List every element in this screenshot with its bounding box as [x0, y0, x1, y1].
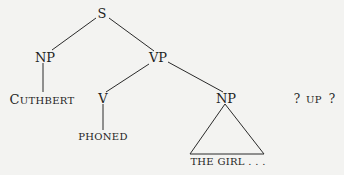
node-np-subject: NP [35, 51, 55, 64]
node-vp: VP [149, 51, 167, 64]
edge-s-np [52, 18, 96, 50]
leaf-phoned: PHONED [78, 132, 128, 142]
leaf-cuthbert: CUTHBERT [10, 93, 75, 106]
question-mark-right: ? [329, 93, 335, 105]
leaf-cuthbert-initial: C [10, 92, 20, 107]
node-np-object: NP [216, 92, 236, 105]
edge-s-vp [109, 18, 154, 51]
particle-up: UP [306, 95, 322, 105]
edge-vp-v [106, 64, 149, 92]
leaf-the-girl: THE GIRL . . . [190, 157, 265, 167]
node-s: S [98, 7, 107, 20]
syntax-tree-diagram: S NP VP CUTHBERT V NP ? UP ? PHONED THE … [0, 0, 344, 175]
node-v: V [98, 92, 107, 105]
tree-edges [0, 0, 344, 175]
leaf-cuthbert-rest: UTHBERT [20, 95, 75, 106]
question-mark-left: ? [294, 93, 300, 105]
np-triangle [190, 104, 264, 154]
edge-vp-np [168, 62, 223, 92]
